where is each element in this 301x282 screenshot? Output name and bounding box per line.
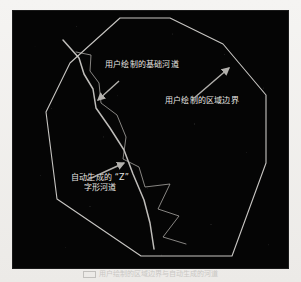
annotation-auto-z-channel-line2: 字形河道	[71, 183, 129, 193]
region-boundary-arrow	[193, 68, 229, 99]
annotation-region-boundary-label: 用户绘制的区域边界	[165, 96, 239, 106]
annotation-base-channel-label: 用户绘制的基础河道	[105, 60, 179, 70]
annotation-auto-z-channel-line1: 自动生成的 “Z”	[71, 173, 129, 183]
figure-root: 用户绘制的基础河道 用户绘制的区域边界 自动生成的 “Z” 字形河道 用户绘制的…	[0, 0, 301, 282]
base-channel-arrow	[98, 81, 119, 100]
figure-caption: 用户绘制的区域边界与自动生成的河道	[13, 270, 288, 279]
auto-z-channel-polyline	[76, 52, 186, 244]
figure-caption-text: 用户绘制的区域边界与自动生成的河道	[99, 270, 218, 278]
base-channel-polyline	[63, 40, 154, 249]
annotation-auto-z-channel-label: 自动生成的 “Z” 字形河道	[71, 173, 129, 193]
caption-marker-icon	[83, 271, 96, 278]
image-panel: 用户绘制的基础河道 用户绘制的区域边界 自动生成的 “Z” 字形河道	[13, 11, 288, 268]
scene-graphics	[13, 11, 288, 268]
region-boundary-polygon	[46, 18, 266, 256]
